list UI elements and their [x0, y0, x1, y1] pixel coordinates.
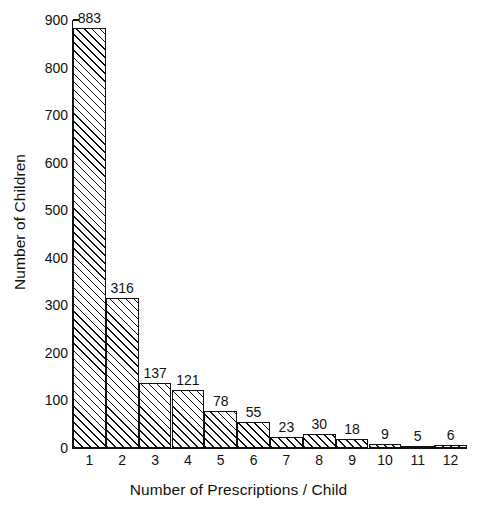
- x-tick-label: 3: [139, 452, 172, 468]
- y-tick-label: 700: [22, 108, 68, 122]
- x-tick-label: 12: [434, 452, 467, 468]
- bar[interactable]: [434, 445, 467, 448]
- bar[interactable]: [139, 383, 172, 448]
- y-tick-label: 0: [22, 441, 68, 455]
- x-tick-label: 1: [73, 452, 106, 468]
- bar[interactable]: [369, 444, 402, 448]
- x-tick-label: 8: [303, 452, 336, 468]
- y-tick-label: 500: [22, 203, 68, 217]
- bar-value-label: 55: [221, 405, 287, 420]
- x-tick-label: 10: [369, 452, 402, 468]
- y-tick-label: 200: [22, 346, 68, 360]
- y-tick-label: 300: [22, 298, 68, 312]
- x-tick-label: 11: [401, 452, 434, 468]
- x-tick-label: 9: [336, 452, 369, 468]
- y-tick-label: 100: [22, 393, 68, 407]
- bar-value-label: 121: [155, 373, 221, 388]
- x-axis-title: Number of Prescriptions / Child: [0, 481, 477, 499]
- x-tick-label: 5: [204, 452, 237, 468]
- bar-value-label: 316: [89, 281, 155, 296]
- plot-area: 8833161371217855233018956: [73, 20, 467, 448]
- y-tick-label: 800: [22, 61, 68, 75]
- y-tick-label: 600: [22, 156, 68, 170]
- bar-value-label: 6: [418, 428, 477, 443]
- y-tick-label: 400: [22, 251, 68, 265]
- x-axis-tick-labels: 123456789101112: [73, 452, 467, 472]
- bar[interactable]: [73, 28, 106, 448]
- histogram-chart: Number of Children 010020030040050060070…: [0, 0, 477, 515]
- x-tick-label: 4: [172, 452, 205, 468]
- bar[interactable]: [270, 437, 303, 448]
- bar-value-label: 883: [57, 11, 123, 26]
- x-tick-label: 6: [237, 452, 270, 468]
- x-tick-label: 7: [270, 452, 303, 468]
- x-tick-label: 2: [106, 452, 139, 468]
- bar[interactable]: [401, 446, 434, 448]
- y-axis-tick-labels: 0100200300400500600700800900: [20, 20, 68, 448]
